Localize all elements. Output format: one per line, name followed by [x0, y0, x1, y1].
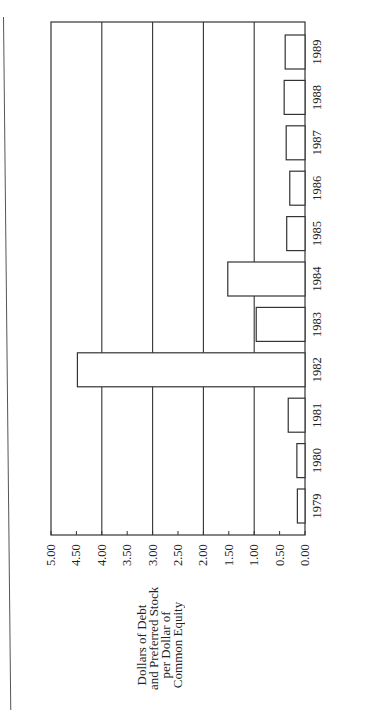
chart: 0.000.501.001.502.002.503.003.504.004.50… — [0, 0, 367, 726]
y-tick-label: 1.50 — [222, 544, 236, 566]
x-category-label: 1985 — [310, 221, 324, 246]
y-axis-title: Dollars of Debt and Preferred Stock per … — [136, 600, 184, 690]
y-tick-label: 0.00 — [298, 544, 312, 566]
y-tick-label: 4.00 — [95, 544, 109, 566]
x-category-label: 1983 — [310, 312, 324, 337]
bar-1985 — [287, 217, 305, 251]
bar-1979 — [297, 489, 305, 523]
bar-1981 — [288, 398, 305, 432]
y-tick-label: 3.00 — [146, 544, 160, 566]
x-category-label: 1980 — [310, 448, 324, 473]
y-tick-label: 2.00 — [196, 544, 210, 566]
x-category-label: 1987 — [310, 130, 324, 155]
bar-1980 — [297, 444, 305, 478]
bar-1988 — [284, 80, 305, 114]
y-tick-label: 2.50 — [171, 544, 185, 566]
y-tick-label: 1.00 — [247, 544, 261, 566]
bar-1989 — [285, 35, 305, 69]
bar-1982 — [77, 353, 305, 387]
y-tick-label: 0.50 — [273, 544, 287, 566]
y-axis-title-line-4: Common Equity — [172, 600, 184, 690]
y-tick-label: 5.00 — [44, 544, 58, 566]
bar-1984 — [228, 262, 305, 296]
x-category-label: 1984 — [310, 266, 324, 292]
x-category-label: 1986 — [310, 176, 324, 201]
y-tick-label: 4.50 — [69, 544, 83, 566]
bar-1983 — [256, 307, 305, 341]
bar-1987 — [286, 126, 305, 160]
x-category-label: 1989 — [310, 40, 324, 65]
x-category-label: 1981 — [310, 403, 324, 428]
x-category-label: 1982 — [310, 357, 324, 382]
y-tick-label: 3.50 — [120, 544, 134, 566]
x-category-label: 1988 — [310, 85, 324, 110]
bar-1986 — [290, 171, 305, 205]
x-category-label: 1979 — [310, 494, 324, 519]
